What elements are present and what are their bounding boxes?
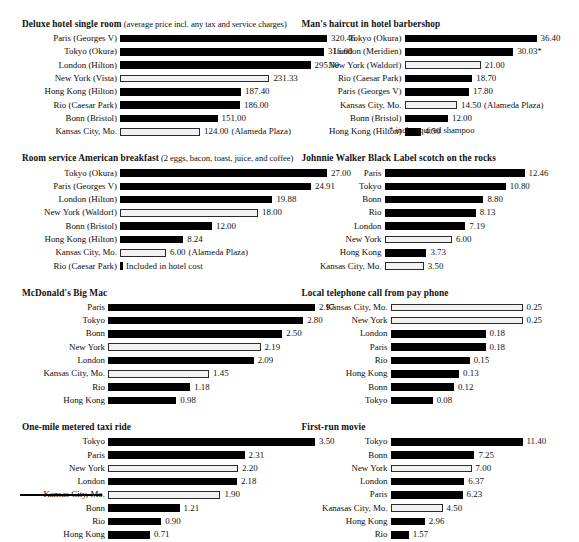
chart-panel-taxi: One-mile metered taxi rideTokyo3.50Paris… [22,421,284,541]
bar-label: Paris [302,169,385,178]
bar-row: Rio0.90 [22,515,284,528]
bar-label: Kansas City, Mo. [22,369,108,378]
bar-value: 1.18 [190,383,210,392]
bar [108,317,303,325]
bar [385,209,476,217]
bar-container [108,327,282,340]
bar [120,61,311,69]
bar-label: New York [22,464,108,473]
bar-value: 14.50 [457,101,481,110]
bar-row: Paris12.46 [302,166,574,179]
bar-container [391,314,523,327]
bar-container [391,448,475,461]
bar-value: 8.24 [183,235,203,244]
bar-label: Hong Kong [302,369,391,378]
bar-row: Hong Kong0.13 [302,367,574,380]
bar-row: Hong Kong2.96 [302,515,574,528]
bar-label: Rio (Caesar Park) [22,101,120,110]
bar-row: London2.18 [22,475,284,488]
bar-label: New York (Vista) [22,74,120,83]
bar-container [120,72,269,85]
bar-row: Hong Kong (Hilton)8.24 [22,233,284,246]
bar-row: Tokyo (Okura)27.00 [22,166,284,179]
bar-container [108,528,150,541]
bar [385,236,452,244]
bar-container [120,59,311,72]
bar-value: 3.73 [426,248,446,257]
bar-container [108,515,161,528]
bar-value: 186.00 [240,101,268,110]
bar-container [385,220,466,233]
bar-container [120,112,218,125]
bar-value: 2.19 [261,343,281,352]
bar-value: 124.00 [200,127,228,136]
bar-label: Tokyo (Okura) [22,169,120,178]
bar-label: New York [302,235,385,244]
bar-label: New York [302,464,391,473]
bar [120,75,269,83]
bar-container [405,59,481,72]
bar-label: Rio [22,517,108,526]
bar-row: Bonn (Bristol)12.00 [302,112,574,125]
bar-container [391,515,425,528]
bar-row: Kansas City, Mo.14.50(Alameda Plaza) [302,98,574,111]
bar-value: 2.20 [238,464,258,473]
bar-label: Paris (Georges V) [22,182,120,191]
bar [391,438,523,446]
bar-row: Paris (Georges V)17.80 [302,85,574,98]
bar [405,101,458,109]
panel-title-hotel-room: Deluxe hotel single room (average price … [22,18,284,30]
right-column: Man's haircut in hotel barbershopTokyo (… [290,0,579,499]
bar [391,317,523,325]
bar [120,209,258,217]
bar-note: (Alameda Plaza) [186,248,248,257]
bar-value: 4.50 [443,504,463,513]
bar [120,222,212,230]
bar-row: Paris2.31 [22,448,284,461]
panel-subtitle: (2 eggs, bacon, toast, juice, and coffee… [159,153,293,163]
bar-label: London (Hilton) [22,61,120,70]
bar-container [391,394,433,407]
bar-container [405,32,537,45]
bar-container [391,475,465,488]
bar-value: 10.80 [506,182,530,191]
bar-label: Rio (Caesar Park) [22,262,120,271]
panel-subtitle: (average price incl. any tax and service… [122,19,287,29]
bar-label: London [302,477,391,486]
bar-label: Kansas City, Mo. [302,101,405,110]
bar-value: 2.96 [425,517,445,526]
bar-label: Kanasas City, Mo. [302,504,391,513]
bar-container [120,125,200,138]
bar-container [391,502,443,515]
bar-label: London (Hilton) [22,195,120,204]
bar-container [108,341,261,354]
bar-row: Tokyo (Okura)316.00 [22,45,284,58]
panel-title-main: Room service American breakfast [22,153,159,163]
bar-container [120,220,212,233]
bar-row: Paris6.23 [302,488,574,501]
bar-value: 0.18 [486,329,506,338]
bar-container [120,180,311,193]
bar [391,304,523,312]
bar-label: Hong Kong [22,530,108,539]
bar-row: Paris0.18 [302,341,574,354]
bar-row: Kanasas City, Mo.4.50 [302,502,574,515]
bar-value: 3.50 [424,262,444,271]
bar-container [108,435,315,448]
bar [108,531,150,539]
bar-row: Tokyo0.08 [302,394,574,407]
bar-container [120,206,258,219]
bar-row: London (Hilton)19.88 [22,193,284,206]
bar-row: Bonn1.21 [22,502,284,515]
bar-label: Paris [302,490,391,499]
bar-row: Kansas City, Mo.1.45 [22,367,284,380]
panel-title-haircut: Man's haircut in hotel barbershop [302,18,574,30]
bar-container [120,98,240,111]
bar-value: 7.25 [474,451,494,460]
bar-label: Kansas City, Mo. [22,248,120,257]
bar-label: London [22,477,108,486]
bar-label: Bonn [22,504,108,513]
bar [391,518,425,526]
bar [405,115,449,123]
bar-value: 187.40 [241,87,269,96]
